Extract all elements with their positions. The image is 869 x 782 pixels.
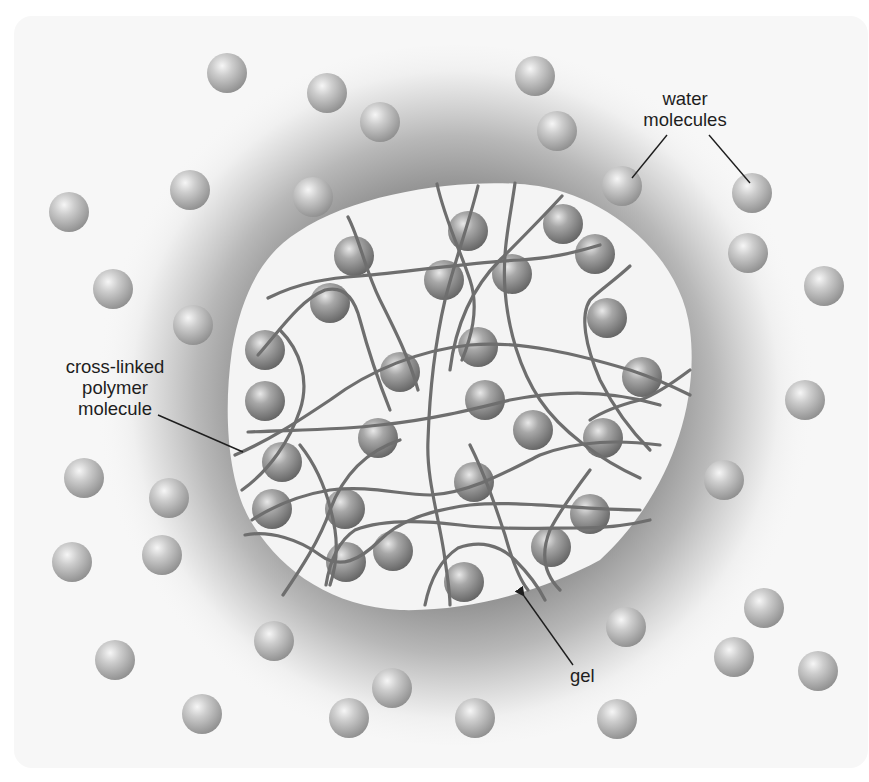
- water-label-line-2: molecules: [615, 109, 755, 130]
- water-molecule-sphere: [804, 266, 844, 306]
- water-molecule-sphere: [52, 542, 92, 582]
- water-molecule-sphere: [537, 111, 577, 151]
- water-molecule-sphere: [728, 233, 768, 273]
- trapped-water-sphere: [575, 234, 615, 274]
- water-molecule-sphere: [149, 478, 189, 518]
- water-molecule-sphere: [704, 460, 744, 500]
- water-label-line-1: water: [615, 88, 755, 109]
- water-molecule-sphere: [95, 640, 135, 680]
- water-molecule-sphere: [207, 53, 247, 93]
- trapped-water-sphere: [513, 410, 553, 450]
- water-molecule-sphere: [254, 621, 294, 661]
- water-molecule-sphere: [515, 56, 555, 96]
- water-molecule-sphere: [785, 380, 825, 420]
- water-molecule-sphere: [798, 651, 838, 691]
- water-molecule-sphere: [329, 698, 369, 738]
- water-molecule-sphere: [744, 588, 784, 628]
- water-molecule-sphere: [360, 102, 400, 142]
- water-molecules-label: water molecules: [615, 88, 755, 130]
- water-molecule-sphere: [714, 637, 754, 677]
- water-molecule-sphere: [182, 694, 222, 734]
- water-molecule-sphere: [307, 73, 347, 113]
- water-molecule-sphere: [293, 177, 333, 217]
- water-molecule-sphere: [455, 698, 495, 738]
- water-molecule-sphere: [597, 699, 637, 739]
- trapped-water-sphere: [465, 380, 505, 420]
- water-molecule-sphere: [142, 535, 182, 575]
- cross-linked-polymer-label: cross-linked polymer molecule: [40, 356, 190, 419]
- water-molecule-sphere: [372, 668, 412, 708]
- trapped-water-sphere: [245, 330, 285, 370]
- polymer-label-line-3: molecule: [40, 398, 190, 419]
- trapped-water-sphere: [587, 298, 627, 338]
- trapped-water-sphere: [583, 418, 623, 458]
- water-molecule-sphere: [49, 192, 89, 232]
- water-molecule-sphere: [64, 458, 104, 498]
- water-molecule-sphere: [606, 607, 646, 647]
- gel-label: gel: [570, 665, 610, 686]
- water-molecule-sphere: [93, 269, 133, 309]
- water-molecule-sphere: [732, 173, 772, 213]
- polymer-label-line-2: polymer: [40, 377, 190, 398]
- trapped-water-sphere: [531, 527, 571, 567]
- water-molecule-sphere: [170, 170, 210, 210]
- trapped-water-sphere: [245, 381, 285, 421]
- water-molecule-sphere: [173, 305, 213, 345]
- polymer-label-line-1: cross-linked: [40, 356, 190, 377]
- trapped-water-sphere: [373, 531, 413, 571]
